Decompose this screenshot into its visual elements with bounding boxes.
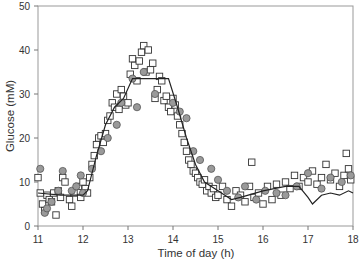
data-point-square	[291, 172, 297, 178]
data-point-circle	[59, 167, 66, 174]
data-point-square	[150, 60, 156, 66]
data-point-square	[323, 161, 329, 167]
data-point-circle	[208, 165, 215, 172]
data-point-square	[66, 196, 72, 202]
data-point-circle	[37, 165, 44, 172]
data-point-square	[138, 49, 144, 55]
data-point-square	[69, 203, 75, 209]
data-point-square	[35, 174, 41, 180]
x-axis-label: Time of day (h)	[158, 247, 235, 259]
data-point-square	[183, 148, 189, 154]
data-point-circle	[214, 176, 221, 183]
y-tick-label: 50	[19, 1, 31, 12]
data-point-circle	[273, 189, 280, 196]
y-tick-label: 0	[24, 221, 30, 232]
data-point-square	[305, 179, 311, 185]
data-point-square	[145, 47, 151, 53]
data-point-circle	[253, 196, 260, 203]
data-point-square	[163, 93, 169, 99]
data-point-circle	[73, 183, 80, 190]
y-tick-label: 30	[19, 89, 31, 100]
x-tick-label: 12	[77, 234, 89, 245]
data-point-circle	[282, 192, 289, 199]
data-point-square	[125, 100, 131, 106]
x-tick-label: 13	[122, 234, 134, 245]
data-point-circle	[183, 115, 190, 122]
data-point-square	[129, 56, 135, 62]
data-point-square	[118, 86, 124, 92]
x-tick-label: 17	[302, 234, 314, 245]
data-point-square	[273, 181, 279, 187]
y-tick-label: 20	[19, 133, 31, 144]
data-point-circle	[48, 198, 55, 205]
data-point-circle	[318, 185, 325, 192]
data-point-square	[147, 67, 153, 73]
x-tick-label: 14	[167, 234, 179, 245]
data-point-square	[228, 203, 234, 209]
x-tick-label: 16	[257, 234, 269, 245]
data-point-circle	[43, 205, 50, 212]
data-point-circle	[151, 90, 158, 97]
data-point-circle	[347, 172, 354, 179]
data-point-square	[80, 179, 86, 185]
data-point-circle	[77, 172, 84, 179]
data-point-square	[136, 58, 142, 64]
data-point-circle	[196, 156, 203, 163]
data-point-circle	[223, 187, 230, 194]
data-point-square	[62, 179, 68, 185]
data-point-square	[341, 172, 347, 178]
x-tick-label: 11	[33, 234, 44, 245]
data-point-square	[345, 166, 351, 172]
data-point-circle	[140, 68, 147, 75]
data-point-square	[269, 196, 275, 202]
x-tick-label: 15	[212, 234, 224, 245]
y-axis-label: Glucose (mM)	[4, 80, 16, 152]
y-tick-label: 10	[19, 177, 31, 188]
data-point-square	[181, 139, 187, 145]
data-point-circle	[327, 174, 334, 181]
data-point-square	[260, 201, 266, 207]
data-point-square	[168, 108, 174, 114]
data-point-square	[343, 150, 349, 156]
series-layer	[35, 42, 355, 218]
data-point-circle	[304, 170, 311, 177]
data-point-square	[53, 212, 59, 218]
y-tick-label: 40	[19, 45, 31, 56]
data-point-circle	[55, 187, 62, 194]
data-point-circle	[338, 178, 345, 185]
x-tick-label: 18	[347, 234, 359, 245]
data-point-circle	[113, 121, 120, 128]
data-point-square	[188, 161, 194, 167]
data-point-square	[318, 174, 324, 180]
data-point-square	[116, 106, 122, 112]
data-point-square	[242, 199, 248, 205]
data-point-square	[249, 159, 255, 165]
data-point-circle	[241, 183, 248, 190]
glucose-chart: 111213141516171801020304050 Time of day …	[0, 0, 361, 265]
data-point-circle	[133, 104, 140, 111]
data-point-square	[282, 179, 288, 185]
data-point-circle	[104, 134, 111, 141]
